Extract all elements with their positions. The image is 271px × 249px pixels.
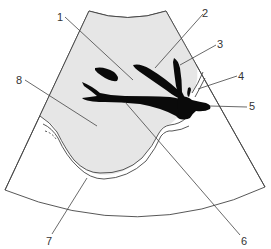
label-8: 8: [16, 74, 22, 86]
ultrasound-diagram: 1 2 3 4 5 6 7 8: [0, 0, 271, 249]
label-3: 3: [217, 38, 223, 50]
label-1: 1: [57, 11, 63, 23]
label-6: 6: [241, 235, 247, 247]
label-7: 7: [46, 235, 52, 247]
label-4: 4: [238, 70, 244, 82]
label-5: 5: [249, 100, 255, 112]
label-2: 2: [202, 7, 208, 19]
